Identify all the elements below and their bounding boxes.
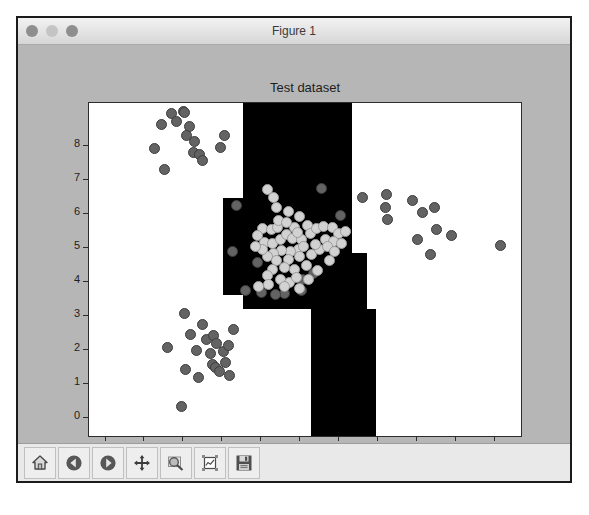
move-cross-icon bbox=[132, 453, 152, 473]
x-tick-mark bbox=[143, 436, 144, 441]
y-tick-mark bbox=[83, 145, 88, 146]
forward-button[interactable] bbox=[92, 447, 124, 479]
y-tick-label: 8 bbox=[60, 137, 80, 149]
home-icon bbox=[30, 453, 50, 473]
subplots-icon bbox=[200, 453, 220, 473]
y-tick-mark bbox=[83, 281, 88, 282]
y-tick-label: 7 bbox=[60, 171, 80, 183]
right-arrow-icon bbox=[98, 453, 118, 473]
x-tick-mark bbox=[105, 436, 106, 441]
y-tick-label: 5 bbox=[60, 239, 80, 251]
magnifier-rect-icon bbox=[166, 453, 186, 473]
x-tick-mark bbox=[416, 436, 417, 441]
figure-window: Figure 1 Test dataset 012345678910012345… bbox=[16, 16, 572, 483]
y-tick-mark bbox=[83, 315, 88, 316]
x-tick-mark bbox=[182, 436, 183, 441]
left-arrow-icon bbox=[64, 453, 84, 473]
y-tick-label: 6 bbox=[60, 205, 80, 217]
x-tick-mark bbox=[260, 436, 261, 441]
y-tick-label: 0 bbox=[60, 409, 80, 421]
y-tick-mark bbox=[83, 213, 88, 214]
x-tick-mark bbox=[494, 436, 495, 441]
y-tick-mark bbox=[83, 349, 88, 350]
y-tick-mark bbox=[83, 247, 88, 248]
zoom-button[interactable] bbox=[160, 447, 192, 479]
back-button[interactable] bbox=[58, 447, 90, 479]
floppy-disk-icon bbox=[234, 453, 254, 473]
home-button[interactable] bbox=[24, 447, 56, 479]
y-tick-label: 4 bbox=[60, 273, 80, 285]
x-tick-mark bbox=[338, 436, 339, 441]
pan-button[interactable] bbox=[126, 447, 158, 479]
chart-title: Test dataset bbox=[88, 80, 522, 95]
y-tick-label: 3 bbox=[60, 307, 80, 319]
y-tick-mark bbox=[83, 179, 88, 180]
x-tick-mark bbox=[299, 436, 300, 441]
y-tick-mark bbox=[83, 383, 88, 384]
y-tick-mark bbox=[83, 417, 88, 418]
configure-subplots-button[interactable] bbox=[194, 447, 226, 479]
window-title: Figure 1 bbox=[18, 18, 570, 44]
y-tick-label: 2 bbox=[60, 341, 80, 353]
title-bar: Figure 1 bbox=[18, 18, 570, 45]
figure-canvas: Test dataset 012345678910012345678 bbox=[22, 49, 566, 453]
x-tick-mark bbox=[455, 436, 456, 441]
x-tick-mark bbox=[221, 436, 222, 441]
y-tick-label: 1 bbox=[60, 375, 80, 387]
axis-decorations: 012345678910012345678 bbox=[88, 102, 522, 437]
figure-body: Test dataset 012345678910012345678 bbox=[18, 45, 570, 457]
x-tick-mark bbox=[377, 436, 378, 441]
navigation-toolbar bbox=[18, 443, 570, 481]
save-button[interactable] bbox=[228, 447, 260, 479]
